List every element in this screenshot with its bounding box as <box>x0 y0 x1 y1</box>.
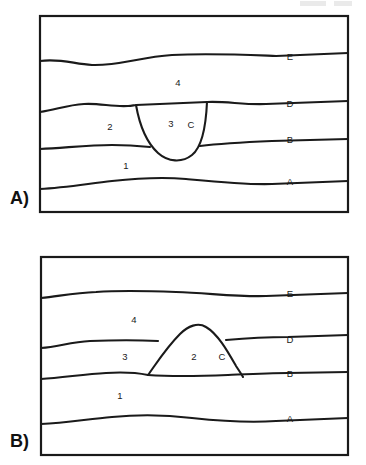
panel-b-contact-B: B <box>287 368 293 379</box>
panel-a-contact-E: E <box>287 51 293 62</box>
panel-b: 4 3 2 1 E D C B A B) <box>10 257 348 455</box>
panel-b-unit-3: 3 <box>122 351 127 362</box>
geologic-cross-section-figure: 4 2 3 1 E D C B A A) 4 3 2 1 E D C <box>0 0 366 465</box>
panel-a-contact-D: D <box>287 98 294 109</box>
panel-a-label: A) <box>10 188 29 208</box>
panel-a-contact-A: A <box>287 176 294 187</box>
scan-artifact <box>300 1 326 6</box>
panel-a-unit-2: 2 <box>107 121 112 132</box>
panel-b-contact-D: D <box>287 334 294 345</box>
figure-canvas: 4 2 3 1 E D C B A A) 4 3 2 1 E D C <box>0 0 366 465</box>
panel-a: 4 2 3 1 E D C B A A) <box>10 16 348 212</box>
panel-b-contact-E: E <box>287 288 293 299</box>
panel-a-unit-3: 3 <box>168 118 173 129</box>
panel-b-unit-1: 1 <box>117 390 122 401</box>
panel-b-unit-4: 4 <box>131 314 136 325</box>
panel-b-unit-2: 2 <box>191 351 196 362</box>
panel-b-contact-C: C <box>219 351 226 362</box>
panel-b-label: B) <box>10 431 29 451</box>
scan-artifact-2 <box>334 1 352 6</box>
panel-b-contact-A: A <box>287 413 294 424</box>
panel-a-contact-C: C <box>188 119 195 130</box>
panel-a-unit-4: 4 <box>175 77 180 88</box>
panel-a-contact-B: B <box>287 134 293 145</box>
panel-a-unit-1: 1 <box>123 160 128 171</box>
